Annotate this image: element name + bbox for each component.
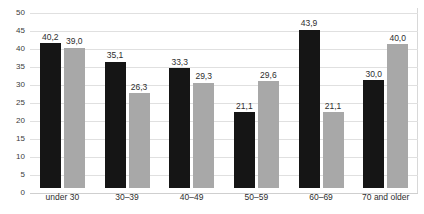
y-axis-tick-45: 45 [16, 27, 25, 35]
gridline-20 [30, 121, 418, 122]
gridline-25 [30, 103, 418, 104]
y-axis-tick-50: 50 [16, 9, 25, 17]
gridline-45 [30, 31, 418, 32]
x-axis-label-3: 50–59 [224, 192, 289, 202]
y-axis-tick-35: 35 [16, 63, 25, 71]
y-axis-tick-30: 30 [16, 81, 25, 89]
y-axis-tick-25: 25 [16, 99, 25, 107]
gridline-40 [30, 49, 418, 50]
x-axis-labels: under 3030–3940–4950–5960–6970 and older [30, 192, 418, 202]
x-axis-label-5: 70 and older [353, 192, 418, 202]
x-axis-label-0: under 30 [30, 192, 95, 202]
gridline-10 [30, 157, 418, 158]
y-axis-tick-20: 20 [16, 117, 25, 125]
gridline-35 [30, 67, 418, 68]
x-axis-label-2: 40–49 [159, 192, 224, 202]
x-axis-label-1: 30–39 [95, 192, 160, 202]
gridline-30 [30, 85, 418, 86]
y-axis-tick-0: 0 [21, 189, 25, 197]
bar-chart: 50454035302520151050 40,239,035,126,333,… [0, 0, 424, 214]
y-axis-tick-10: 10 [16, 153, 25, 161]
plot-area: 50454035302520151050 [30, 8, 418, 193]
right-axis-line [417, 8, 418, 193]
gridline-50 [30, 13, 418, 14]
gridline-5 [30, 175, 418, 176]
gridline-15 [30, 139, 418, 140]
y-axis-tick-40: 40 [16, 45, 25, 53]
y-axis-tick-5: 5 [21, 171, 25, 179]
y-axis-tick-15: 15 [16, 135, 25, 143]
x-axis-label-4: 60–69 [289, 192, 354, 202]
